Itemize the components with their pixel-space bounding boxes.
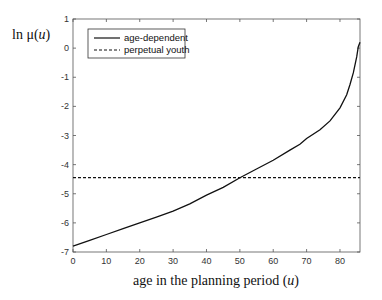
- y-tick-label: -5: [61, 189, 69, 199]
- legend-label-age-dependent: age-dependent: [124, 32, 188, 43]
- y-tick-label: -2: [61, 101, 69, 111]
- y-axis-label: ln μ(u): [12, 27, 51, 43]
- legend-label-perpetual-youth: perpetual youth: [124, 44, 190, 55]
- x-tick-label: 80: [335, 256, 345, 266]
- x-tick-label: 20: [135, 256, 145, 266]
- y-tick-label: -1: [61, 72, 69, 82]
- y-tick-label: -3: [61, 131, 69, 141]
- line-chart: 0102030405060708010-1-2-3-4-5-6-7 age-de…: [0, 0, 382, 300]
- y-tick-label: 1: [64, 14, 69, 24]
- y-tick-label: -7: [61, 247, 69, 257]
- y-tick-label: 0: [64, 43, 69, 53]
- legend: age-dependent perpetual youth: [88, 29, 190, 58]
- y-tick-label: -4: [61, 160, 69, 170]
- x-tick-label: 70: [302, 256, 312, 266]
- x-axis-label: age in the planning period (u): [133, 273, 299, 289]
- x-tick-label: 10: [101, 256, 111, 266]
- x-tick-label: 30: [168, 256, 178, 266]
- x-tick-label: 60: [268, 256, 278, 266]
- x-tick-label: 0: [70, 256, 75, 266]
- x-tick-label: 40: [201, 256, 211, 266]
- x-tick-label: 50: [235, 256, 245, 266]
- y-tick-label: -6: [61, 218, 69, 228]
